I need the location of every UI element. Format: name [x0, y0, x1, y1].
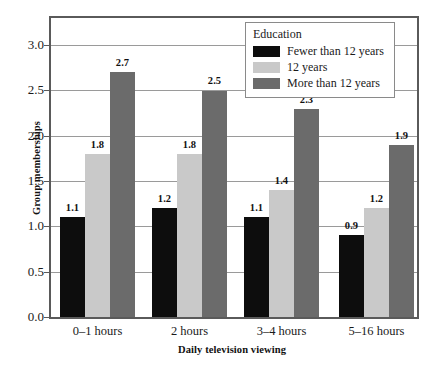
x-axis-title: Daily television viewing [0, 344, 434, 355]
legend-swatch-more-than-12-years [253, 78, 280, 89]
legend-swatch-fewer-than-12-years [253, 46, 280, 57]
bar-value-label: 1.2 [158, 193, 171, 204]
bar-value-label: 1.8 [183, 139, 196, 150]
bar [60, 217, 85, 317]
legend-swatch-12-years [253, 62, 280, 73]
x-tick-label: 3–4 hours [257, 324, 307, 339]
bar-value-label: 2.7 [116, 57, 129, 68]
legend-item: More than 12 years [253, 75, 387, 91]
legend-label: 12 years [287, 60, 327, 74]
bar-value-label: 1.9 [395, 130, 408, 141]
y-tick-label: 0.5 [0, 264, 50, 280]
legend-label: More than 12 years [287, 76, 380, 90]
bar-value-label: 1.8 [91, 139, 104, 150]
y-tick-label: 3.0 [0, 37, 50, 53]
bar [244, 217, 269, 317]
bar-value-label: 1.1 [250, 202, 263, 213]
bar-value-label: 1.4 [275, 175, 288, 186]
legend-item: 12 years [253, 59, 387, 75]
y-tick-label: 0.0 [0, 309, 50, 325]
bar [389, 145, 414, 317]
legend-title: Education [253, 28, 387, 41]
bar [152, 208, 177, 317]
x-tick-label: 2 hours [171, 324, 208, 339]
bar-value-label: 1.2 [370, 193, 383, 204]
bar [85, 154, 110, 317]
bar-value-label: 2.5 [208, 75, 221, 86]
bar-value-label: 0.9 [345, 220, 358, 231]
bar [202, 91, 227, 318]
y-tick-label: 1.0 [0, 218, 50, 234]
bar-value-label: 1.1 [66, 202, 79, 213]
x-tick-label: 0–1 hours [73, 324, 123, 339]
legend: Education Fewer than 12 years 12 years M… [245, 22, 395, 98]
bar [177, 154, 202, 317]
y-tick-label: 2.0 [0, 128, 50, 144]
bar [294, 109, 319, 317]
legend-label: Fewer than 12 years [287, 44, 384, 58]
bar [339, 235, 364, 317]
bar [110, 72, 135, 317]
legend-item: Fewer than 12 years [253, 43, 387, 59]
y-tick-label: 2.5 [0, 82, 50, 98]
y-tick-label: 1.5 [0, 173, 50, 189]
x-axis-title-text: Daily television viewing [178, 344, 286, 355]
x-tick-label: 5–16 hours [349, 324, 405, 339]
chart-screenshot: Group memberships 0.00.51.01.52.02.53.0 … [0, 0, 434, 366]
bar [364, 208, 389, 317]
gridline [51, 136, 417, 137]
bar [269, 190, 294, 317]
